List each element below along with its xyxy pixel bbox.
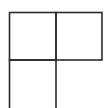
squares-diagram bbox=[0, 0, 109, 108]
square-top-left bbox=[10, 13, 57, 61]
square-top-right bbox=[56, 13, 102, 61]
square-bottom-left bbox=[10, 60, 57, 108]
